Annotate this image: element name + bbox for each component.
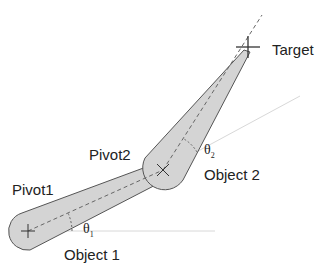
arm-diagram: Target Pivot2 Object 2 Pivot1 Object 1 θ… bbox=[0, 0, 326, 273]
target-label: Target bbox=[272, 41, 314, 58]
object-1-label: Object 1 bbox=[64, 246, 120, 263]
theta-2-label: θ2 bbox=[204, 142, 215, 160]
pivot-1-label: Pivot1 bbox=[12, 181, 54, 198]
theta-1-label: θ1 bbox=[83, 221, 94, 239]
object-2-label: Object 2 bbox=[204, 166, 260, 183]
pivot-2-label: Pivot2 bbox=[89, 146, 131, 163]
